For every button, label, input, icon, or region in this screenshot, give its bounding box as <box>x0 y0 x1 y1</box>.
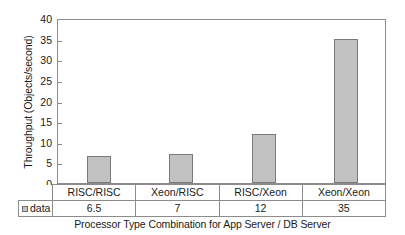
plot-area <box>57 19 386 184</box>
y-tick-label: 15 <box>28 117 52 127</box>
table-cell-category: RISC/Xeon <box>219 185 302 201</box>
data-table: RISC/RISCXeon/RISCRISC/XeonXeon/Xeon dat… <box>18 184 386 217</box>
x-axis-caption: Processor Type Combination for App Serve… <box>0 218 405 230</box>
y-tick-label: 40 <box>28 14 52 24</box>
y-tick-label: 30 <box>28 55 52 65</box>
bars-layer <box>58 20 385 183</box>
y-tick-label: 20 <box>28 97 52 107</box>
table-spacer-cell <box>19 185 53 201</box>
y-tick-label: 35 <box>28 35 52 45</box>
y-tick-label: 5 <box>28 158 52 168</box>
bar-xeon-risc <box>169 154 193 183</box>
table-cell-category: Xeon/RISC <box>136 185 219 201</box>
y-tick-mark <box>58 41 62 42</box>
table-row-categories: RISC/RISCXeon/RISCRISC/XeonXeon/Xeon <box>19 185 386 201</box>
y-tick-mark <box>58 164 62 165</box>
bar-risc-xeon <box>252 134 276 184</box>
y-tick-label: 25 <box>28 76 52 86</box>
table-cell-category: RISC/RISC <box>53 185 136 201</box>
table-cell-value: 6.5 <box>53 201 136 217</box>
bar-xeon-xeon <box>334 39 358 183</box>
table-row-values: data 6.571235 <box>19 201 386 217</box>
y-tick-label: 10 <box>28 138 52 148</box>
legend-swatch-icon <box>22 206 28 212</box>
y-tick-mark <box>58 144 62 145</box>
data-table-wrapper: RISC/RISCXeon/RISCRISC/XeonXeon/Xeon dat… <box>18 184 386 217</box>
legend-cell: data <box>19 201 53 217</box>
y-tick-mark <box>58 103 62 104</box>
legend-label: data <box>30 203 50 214</box>
bar-risc-risc <box>87 156 111 183</box>
bar-chart: Throughput (Objects/second) 051015202530… <box>0 0 405 235</box>
y-tick-mark <box>58 61 62 62</box>
y-tick-mark <box>58 82 62 83</box>
table-cell-value: 12 <box>219 201 302 217</box>
table-cell-value: 35 <box>302 201 385 217</box>
y-axis-tick-labels: 0510152025303540 <box>28 19 52 184</box>
y-tick-mark <box>58 123 62 124</box>
table-cell-value: 7 <box>136 201 219 217</box>
table-cell-category: Xeon/Xeon <box>302 185 385 201</box>
